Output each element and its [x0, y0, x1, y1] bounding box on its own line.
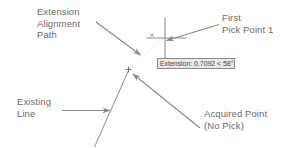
diagram-canvas: Extension Alignment Path First Pick Poin…: [0, 0, 293, 147]
acquired-point-marker-icon: [126, 67, 132, 73]
annotation-first-pick-point: First Pick Point 1: [222, 12, 273, 35]
annotation-acquired-point: Acquired Point (No Pick): [204, 108, 267, 131]
existing-line-geometry: [95, 71, 129, 148]
annotation-line: Line: [17, 108, 51, 120]
annotation-line: Path: [37, 29, 80, 41]
leader-extension-alignment-path: [96, 22, 141, 55]
leader-first-pick-point: [167, 25, 220, 41]
annotation-existing-line: Existing Line: [17, 96, 51, 119]
annotation-extension-alignment-path: Extension Alignment Path: [37, 6, 80, 41]
annotation-line: Existing: [17, 96, 51, 108]
annotation-line: (No Pick): [204, 120, 267, 132]
extension-tooltip: Extension: 0.7092 < 58°: [157, 58, 235, 69]
annotation-line: Pick Point 1: [222, 24, 273, 36]
annotation-line: Alignment: [37, 18, 80, 30]
tracking-marker-icon: [150, 33, 153, 36]
annotation-line: First: [222, 12, 273, 24]
leader-acquired-point: [133, 74, 200, 128]
annotation-line: Extension: [37, 6, 80, 18]
crosshair-cursor: [147, 18, 188, 59]
annotation-line: Acquired Point: [204, 108, 267, 120]
